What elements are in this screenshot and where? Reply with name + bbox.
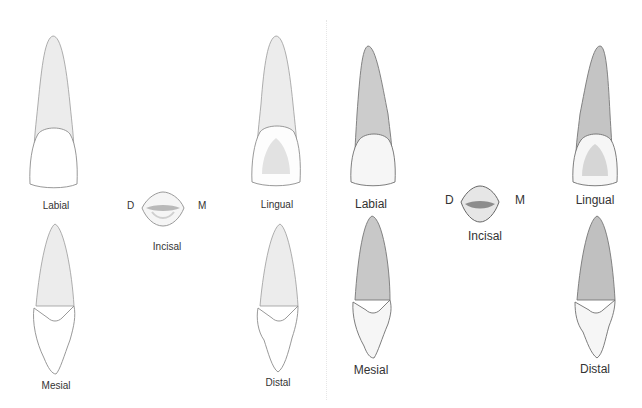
tooth-diagram: Labial D M Incisal Lingual Mesial Distal xyxy=(0,0,642,408)
tooth-lingual-view-right xyxy=(570,44,620,194)
right-panel: Labial D M Incisal Lingual Mesial Distal xyxy=(325,0,642,408)
label-lingual: Lingual xyxy=(261,199,293,210)
label-mesial: Mesial xyxy=(42,380,71,391)
label-distal-abbrev: D xyxy=(445,193,454,207)
tooth-labial-view-right xyxy=(348,44,398,194)
tooth-mesial-view-left xyxy=(30,222,80,378)
label-labial: Labial xyxy=(43,200,70,211)
label-lingual: Lingual xyxy=(576,193,615,207)
label-distal: Distal xyxy=(265,377,290,388)
tooth-incisal-view-left xyxy=(138,190,188,230)
tooth-distal-view-right xyxy=(571,214,619,360)
label-distal: Distal xyxy=(580,362,610,376)
left-panel: Labial D M Incisal Lingual Mesial Distal xyxy=(0,0,325,408)
label-incisal: Incisal xyxy=(153,241,181,252)
tooth-distal-view-left xyxy=(252,222,302,376)
tooth-labial-view-left xyxy=(26,34,82,194)
label-distal-abbrev: D xyxy=(127,200,134,211)
label-labial: Labial xyxy=(355,197,387,211)
tooth-mesial-view-right xyxy=(350,214,396,360)
label-mesial: Mesial xyxy=(354,363,389,377)
tooth-incisal-view-right xyxy=(457,184,503,226)
label-incisal: Incisal xyxy=(468,229,502,243)
label-mesial-abbrev: M xyxy=(515,193,525,207)
label-mesial-abbrev: M xyxy=(198,200,206,211)
tooth-lingual-view-left xyxy=(248,34,304,192)
